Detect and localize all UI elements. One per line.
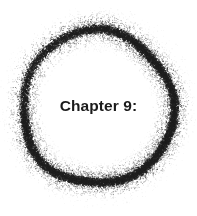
chapter-heading: Chapter 9:: [0, 97, 197, 115]
page-root: Chapter 9:: [0, 0, 197, 216]
